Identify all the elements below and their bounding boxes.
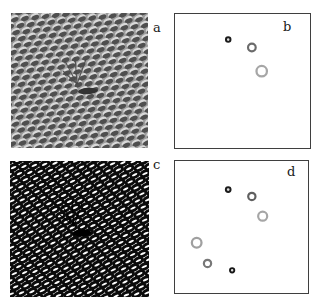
defect-marker-plot — [175, 161, 308, 293]
large-light-ring — [256, 66, 266, 76]
figure-page: a b c d — [0, 0, 319, 305]
large-light-ring — [192, 238, 202, 248]
small-dark-ring — [230, 268, 234, 272]
panel-label-d: d — [287, 165, 295, 178]
large-light-ring — [258, 212, 267, 221]
defect-marker-plot — [175, 14, 310, 148]
hexagonal-pattern-binary — [10, 161, 149, 297]
panel-label-b: b — [283, 20, 291, 33]
medium-gray-ring — [204, 260, 211, 267]
panel-d-defect-map: d — [174, 160, 309, 294]
panel-c-binarized-texture — [10, 161, 149, 297]
panel-b-defect-map: b — [174, 13, 311, 149]
panel-a-shadowgraph-texture — [11, 13, 148, 148]
hexagonal-pattern-grayscale — [11, 13, 148, 148]
small-dark-ring — [226, 187, 231, 192]
small-dark-ring — [226, 37, 231, 42]
medium-gray-ring — [248, 193, 255, 200]
medium-gray-ring — [248, 44, 256, 52]
panel-label-a: a — [153, 21, 161, 34]
panel-label-c: c — [153, 158, 160, 171]
